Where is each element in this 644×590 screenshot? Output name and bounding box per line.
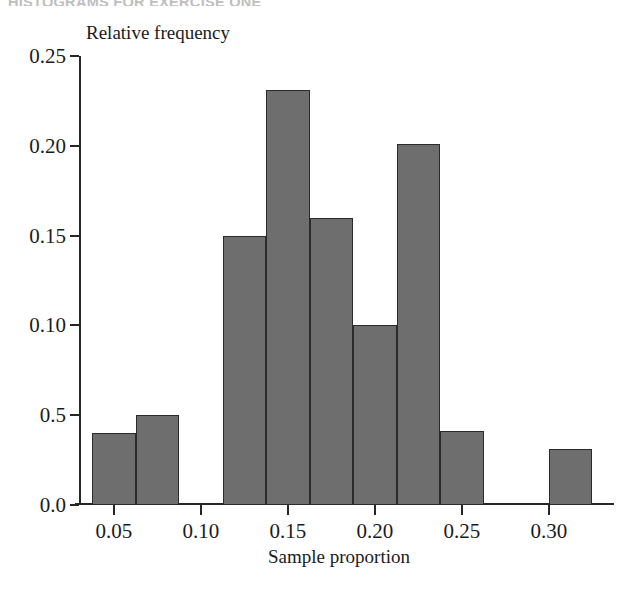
x-tick-mark [113,505,115,515]
x-tick-label: 0.05 [95,521,132,542]
y-tick-label: 0.15 [29,225,66,246]
histogram-bar [397,144,440,505]
page-header-text: HISTOGRAMS FOR EXERCISE ONE [8,0,428,6]
histogram-bar [266,90,309,505]
x-tick-label: 0.30 [530,521,567,542]
histogram-bar [440,431,483,505]
y-tick-label: 0.0 [40,495,66,516]
y-axis-title: Relative frequency [86,22,230,44]
y-tick-label: 0.20 [29,135,66,156]
x-tick-label: 0.10 [182,521,219,542]
y-tick-label: 0.10 [29,315,66,336]
x-tick-mark [548,505,550,515]
x-tick-label: 0.15 [269,521,306,542]
plot-area: 0.00.50.100.150.200.25 0.050.100.150.200… [79,56,614,505]
y-tick-mark [70,504,79,506]
x-tick-mark [287,505,289,515]
y-axis-line [79,56,81,505]
histogram-bar [223,236,266,505]
y-tick-mark [70,324,79,326]
x-tick-mark [200,505,202,515]
x-tick-label: 0.20 [356,521,393,542]
histogram-bar [92,433,135,505]
y-tick-mark [70,55,79,57]
x-axis-title-wrap: Sample proportion [0,546,644,568]
histogram-bar [549,449,592,505]
y-tick-mark [70,235,79,237]
x-tick-label: 0.25 [443,521,480,542]
x-tick-mark [461,505,463,515]
histogram-bar [310,218,353,505]
y-tick-label: 0.25 [29,46,66,67]
histogram-bar [353,325,396,505]
y-tick-mark [70,414,79,416]
y-tick-label: 0.5 [40,405,66,426]
y-tick-mark [70,145,79,147]
histogram-bar [136,415,179,505]
histogram-figure: HISTOGRAMS FOR EXERCISE ONE Relative fre… [0,0,644,590]
x-tick-mark [374,505,376,515]
x-axis-title: Sample proportion [268,546,410,568]
